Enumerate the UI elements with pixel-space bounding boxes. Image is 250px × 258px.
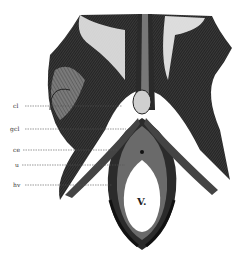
- urethral-orifice: [140, 150, 144, 154]
- label-hv: hv: [13, 182, 21, 188]
- label-u: u: [15, 162, 19, 168]
- anatomical-illustration: [0, 0, 250, 258]
- label-cl: cl: [13, 103, 19, 109]
- label-ce: ce: [13, 147, 20, 153]
- label-v: V.: [137, 196, 147, 207]
- label-gcl: gcl: [10, 126, 20, 132]
- glans: [133, 90, 151, 114]
